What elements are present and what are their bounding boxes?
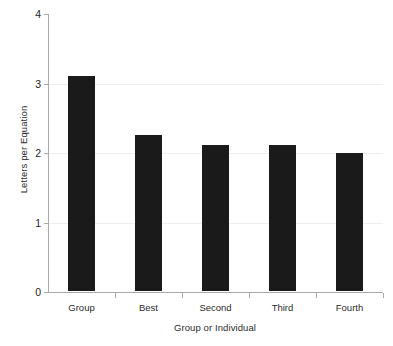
y-tick-mark xyxy=(44,153,48,154)
y-tick-mark xyxy=(44,223,48,224)
bar-chart-figure: Letters per Equation 01234 GroupBestSeco… xyxy=(0,0,393,346)
y-tick-label: 4 xyxy=(35,8,41,20)
x-tick-mark xyxy=(115,293,116,298)
plot-area: 01234 GroupBestSecondThirdFourth xyxy=(48,14,383,292)
x-tick-mark xyxy=(383,293,384,298)
y-tick-mark xyxy=(44,14,48,15)
x-tick-label: Fourth xyxy=(336,302,363,313)
y-tick-mark xyxy=(44,292,48,293)
gridline xyxy=(49,84,383,85)
y-tick-label: 1 xyxy=(35,217,41,229)
bar xyxy=(202,145,229,291)
y-tick-label: 0 xyxy=(35,286,41,298)
x-tick-mark xyxy=(316,293,317,298)
y-tick-mark xyxy=(44,84,48,85)
x-axis-title: Group or Individual xyxy=(46,322,384,333)
bar xyxy=(135,135,162,291)
bar xyxy=(269,145,296,291)
bar xyxy=(336,153,363,291)
y-tick-label: 3 xyxy=(35,78,41,90)
x-tick-label: Group xyxy=(68,302,94,313)
x-axis-line xyxy=(48,292,383,293)
x-tick-label: Second xyxy=(199,302,231,313)
x-tick-mark xyxy=(182,293,183,298)
y-axis-title: Letters per Equation xyxy=(18,70,29,230)
x-tick-label: Third xyxy=(272,302,294,313)
x-tick-label: Best xyxy=(139,302,158,313)
x-tick-mark xyxy=(249,293,250,298)
y-tick-label: 2 xyxy=(35,147,41,159)
bar xyxy=(68,76,95,291)
